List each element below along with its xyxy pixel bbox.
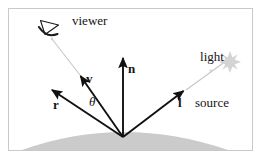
light-source-label-line1: light	[185, 50, 239, 63]
viewer-ray-endpoint	[51, 38, 54, 41]
viewer-label: viewer	[72, 14, 107, 27]
viewer-icon	[39, 21, 59, 36]
angle-theta-label: θ	[89, 95, 95, 108]
viewer-ray	[52, 39, 80, 75]
lighting-diagram-figure: viewer light source n v r l θ	[0, 0, 262, 165]
vector-v-label: v	[86, 72, 93, 85]
vector-r	[52, 90, 123, 137]
light-source-label: light source	[185, 17, 239, 141]
light-source-label-line2: source	[185, 96, 239, 109]
vector-l	[123, 91, 184, 137]
vector-r-label: r	[53, 98, 59, 111]
vector-l-label: l	[178, 96, 182, 109]
vector-n-label: n	[128, 62, 135, 75]
